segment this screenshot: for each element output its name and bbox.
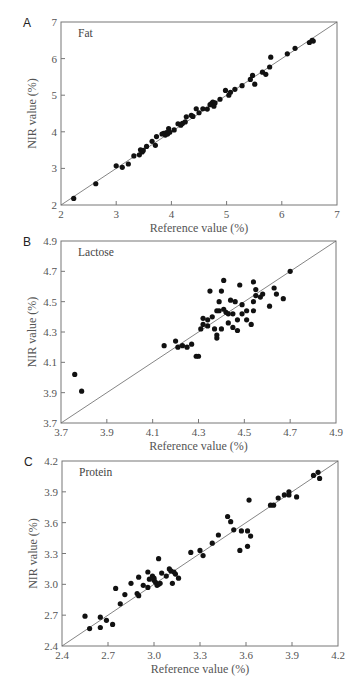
data-point	[131, 153, 136, 158]
data-point	[228, 90, 233, 95]
data-point	[183, 119, 188, 124]
data-point	[239, 83, 244, 88]
data-point	[98, 615, 103, 620]
data-point	[196, 110, 201, 115]
data-point	[237, 548, 242, 553]
y-axis-title: NIR value (%)	[25, 297, 39, 368]
data-point	[126, 161, 131, 166]
data-point	[221, 278, 226, 283]
x-tick-label: 3.9	[100, 426, 114, 438]
data-point	[217, 308, 222, 313]
data-point	[198, 326, 203, 331]
data-point	[235, 317, 240, 322]
data-point	[153, 143, 158, 148]
y-tick-label: 3.7	[43, 417, 57, 429]
panel-label: A	[23, 16, 31, 30]
data-point	[245, 544, 250, 549]
y-tick-label: 3.3	[44, 548, 58, 560]
x-tick-label: 5	[224, 208, 230, 220]
data-point	[210, 541, 215, 546]
data-point	[158, 581, 163, 586]
data-point	[72, 372, 77, 377]
y-tick-label: 3.9	[44, 486, 58, 498]
data-point	[104, 618, 109, 623]
data-point	[249, 322, 254, 327]
identity-line	[62, 461, 338, 646]
data-point	[170, 581, 175, 586]
data-point	[311, 473, 316, 478]
data-point	[141, 583, 146, 588]
data-point	[212, 326, 217, 331]
panel-title: Fat	[78, 27, 94, 39]
data-point	[136, 575, 141, 580]
y-tick-label: 4.1	[43, 356, 57, 368]
y-tick-label: 5	[52, 89, 58, 101]
panel-label: C	[24, 455, 33, 469]
data-point	[315, 470, 320, 475]
data-point	[173, 339, 178, 344]
data-point	[196, 354, 201, 359]
data-point	[167, 130, 172, 135]
y-tick-label: 2	[52, 199, 58, 211]
data-point	[217, 299, 222, 304]
figure: A234567234567Reference value (%)NIR valu…	[0, 0, 360, 680]
data-point	[122, 592, 127, 597]
data-point	[311, 38, 316, 43]
data-point	[145, 585, 150, 590]
data-point	[251, 279, 256, 284]
data-point	[113, 586, 118, 591]
data-point	[230, 325, 235, 330]
data-point	[212, 100, 217, 105]
data-point	[71, 196, 76, 201]
data-point	[190, 114, 195, 119]
data-point	[214, 335, 219, 340]
data-point	[219, 288, 224, 293]
data-point	[244, 308, 249, 313]
x-tick-label: 2.7	[101, 649, 115, 661]
data-point	[228, 298, 233, 303]
data-point	[223, 88, 228, 93]
data-point	[159, 570, 164, 575]
data-point	[239, 311, 244, 316]
x-tick-label: 3.6	[239, 649, 253, 661]
y-axis-title: NIR value (%)	[26, 518, 40, 589]
data-point	[93, 181, 98, 186]
y-tick-label: 3.9	[43, 387, 57, 399]
data-point	[141, 148, 146, 153]
data-point	[239, 302, 244, 307]
y-tick-label: 4.3	[43, 326, 57, 338]
data-point	[285, 51, 290, 56]
y-tick-label: 3.6	[44, 517, 58, 529]
data-point	[288, 269, 293, 274]
y-tick-label: 4.2	[44, 455, 58, 467]
data-point	[200, 322, 205, 327]
data-point	[260, 291, 265, 296]
data-point	[154, 134, 159, 139]
data-point	[172, 127, 177, 132]
data-point	[180, 343, 185, 348]
data-point	[232, 87, 237, 92]
panel-a: A234567234567Reference value (%)NIR valu…	[23, 16, 340, 235]
x-tick-label: 3.9	[285, 649, 299, 661]
data-point	[271, 503, 276, 508]
data-point	[267, 64, 272, 69]
x-tick-label: 4.5	[237, 426, 251, 438]
y-tick-label: 4.9	[43, 235, 57, 247]
x-tick-label: 6	[279, 208, 285, 220]
x-tick-label: 3.0	[147, 649, 161, 661]
data-point	[244, 317, 249, 322]
panel-b: B3.73.94.14.34.54.74.93.73.94.14.34.54.7…	[23, 235, 343, 453]
data-point	[164, 574, 169, 579]
data-point	[175, 345, 180, 350]
data-point	[228, 519, 233, 524]
data-point	[98, 625, 103, 630]
x-tick-label: 3.3	[193, 649, 207, 661]
y-tick-label: 2.4	[44, 640, 58, 652]
data-point	[176, 576, 181, 581]
data-point	[276, 495, 281, 500]
x-axis-title: Reference value (%)	[150, 221, 249, 235]
data-point	[253, 293, 258, 298]
data-point	[200, 316, 205, 321]
data-point	[282, 492, 287, 497]
data-point	[217, 97, 222, 102]
